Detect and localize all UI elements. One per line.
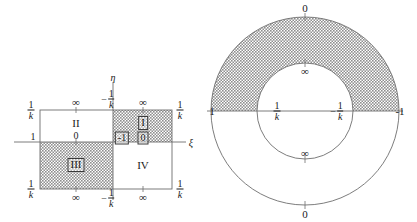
annulus-label-outer-right: -1 — [395, 106, 404, 117]
edge-label-bottom-center: − 1 k — [101, 188, 115, 209]
edge-label-top-left-infinity: ∞ — [72, 97, 80, 108]
corner-label-bottom-right: 1 k — [177, 179, 184, 200]
top-center-sign: − — [101, 94, 107, 104]
corner-bottom-left-numerator: 1 — [28, 179, 35, 189]
annulus-inner-right-numerator: 1 — [337, 101, 344, 111]
quadrant-label-IV: IV — [137, 160, 149, 171]
annulus-label-outer-bottom: 0 — [302, 209, 308, 220]
corner-bottom-right-denominator: k — [177, 189, 183, 200]
corner-bottom-left-denominator: k — [28, 189, 34, 200]
corner-top-right-denominator: k — [177, 110, 183, 121]
corner-top-right-numerator: 1 — [177, 100, 184, 110]
corner-top-left-numerator: 1 — [28, 100, 35, 110]
annulus-label-inner-top: ∞ — [301, 66, 309, 77]
quadrant-label-II: II — [72, 118, 79, 129]
eta-axis-label: η — [111, 73, 116, 83]
edge-label-left-one: 1 — [31, 132, 36, 142]
top-center-numerator: 1 — [108, 89, 115, 99]
edge-label-top-right-infinity: ∞ — [139, 97, 147, 108]
bottom-center-sign: − — [101, 193, 107, 203]
edge-label-left-zero: 0 — [74, 131, 79, 141]
annulus-inner-right-sign: − — [330, 106, 336, 116]
corner-label-bottom-left: 1 k — [28, 179, 35, 200]
corner-top-left-denominator: k — [28, 110, 34, 121]
left-diagram-group — [14, 82, 186, 200]
bottom-center-denominator: k — [108, 198, 114, 209]
top-center-denominator: k — [108, 99, 114, 110]
right-diagram-group — [205, 10, 405, 209]
corner-label-top-left: 1 k — [28, 100, 35, 121]
annulus-inner-left-numerator: 1 — [274, 101, 281, 111]
edge-label-bottom-right-infinity: ∞ — [139, 192, 147, 203]
edge-label-top-center: − 1 k — [101, 89, 115, 110]
bottom-center-numerator: 1 — [108, 188, 115, 198]
edge-label-bottom-left-infinity: ∞ — [72, 192, 80, 203]
annulus-inner-left-denominator: k — [274, 111, 280, 122]
annulus-inner-right-denominator: k — [337, 111, 343, 122]
annulus-label-inner-bottom: ∞ — [301, 148, 309, 159]
quadrant-label-I: I — [138, 116, 148, 130]
center-label-zero: 0 — [138, 132, 149, 145]
corner-label-top-right: 1 k — [177, 100, 184, 121]
center-label-minus-one: -1 — [115, 132, 129, 145]
xi-axis-label: ξ — [189, 138, 193, 148]
annulus-label-outer-top: 0 — [302, 3, 308, 14]
quadrant-label-III: III — [68, 158, 85, 172]
annulus-label-inner-left: 1 k — [274, 101, 281, 122]
annulus-label-outer-left: 1 — [209, 106, 215, 117]
figure-root: ξ η I II III IV -1 0 ∞ ∞ ∞ ∞ 1 0 1 k 1 k… — [0, 0, 417, 222]
annulus-label-inner-right: − 1 k — [330, 101, 344, 122]
corner-bottom-right-numerator: 1 — [177, 179, 184, 189]
